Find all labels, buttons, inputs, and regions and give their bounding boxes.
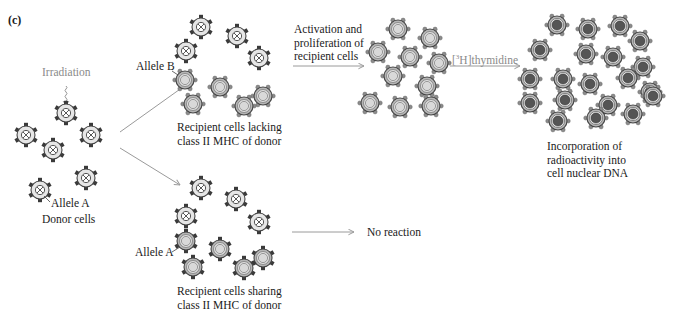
recipient-cell-allele-b xyxy=(251,85,276,107)
recipient-cell-allele-b xyxy=(232,95,257,117)
incorporation-line2: radioactivity into xyxy=(547,154,628,168)
radiolabeled-cell xyxy=(578,73,603,95)
radiolabeled-cell xyxy=(518,92,543,114)
donor-cell xyxy=(79,123,102,147)
incorporation-line3: cell nuclear DNA xyxy=(547,167,628,181)
irradiated-donor-cell xyxy=(174,204,197,228)
activated-recipient-cell xyxy=(366,41,391,63)
recipient-cell-allele-a xyxy=(208,237,231,261)
activated-recipient-cell xyxy=(427,52,452,74)
irradiation-label: Irradiation xyxy=(42,66,91,80)
recipient-sharing-caption: Recipient cells sharing class II MHC of … xyxy=(177,285,282,312)
radiolabeled-cell xyxy=(608,15,633,37)
recipient-sharing-line2: class II MHC of donor xyxy=(177,299,282,313)
recipient-cell-allele-a xyxy=(181,255,204,279)
allele-a-recipient-label: Allele A xyxy=(135,246,174,260)
activated-recipient-cell xyxy=(418,27,443,49)
recipient-cell-allele-b xyxy=(173,69,198,91)
activated-recipient-cell xyxy=(398,46,423,68)
donor-cell xyxy=(54,101,77,125)
recipient-sharing-line1: Recipient cells sharing xyxy=(177,285,282,299)
activation-line3: recipient cells xyxy=(294,50,364,64)
radiolabeled-cell xyxy=(574,43,599,65)
activated-recipient-cell xyxy=(419,95,444,117)
donor-cell xyxy=(14,123,37,147)
recipient-lacking-line2: class II MHC of donor xyxy=(177,135,282,149)
irradiated-donor-cell xyxy=(247,46,270,70)
irradiated-donor-cell xyxy=(189,15,212,39)
recipient-cell-allele-a xyxy=(232,256,255,280)
donor-cell xyxy=(41,138,64,162)
radiolabeled-cell xyxy=(545,14,570,36)
thymidine-label: [3H]thymidine xyxy=(452,51,518,67)
mixed-lymphocyte-reaction-diagram: (c) Irradiation Allele A Donor cells All… xyxy=(0,0,673,321)
recipient-cell-allele-a xyxy=(251,246,274,270)
no-reaction-label: No reaction xyxy=(367,226,421,240)
activated-recipient-cell xyxy=(358,92,383,114)
activated-recipient-cell xyxy=(386,18,411,40)
activation-caption: Activation and proliferation of recipien… xyxy=(294,23,364,64)
recipient-cell-allele-b xyxy=(181,93,206,115)
allele-a-donor-label: Allele A xyxy=(51,197,90,211)
activation-line1: Activation and xyxy=(294,23,364,37)
irradiated-donor-cell xyxy=(224,187,247,211)
radiolabeled-cell xyxy=(621,103,646,125)
recipient-cell-allele-b xyxy=(208,76,233,98)
incorporation-caption: Incorporation of radioactivity into cell… xyxy=(547,140,628,181)
arrow-donor-to-bottom xyxy=(120,148,180,185)
incorporation-line1: Incorporation of xyxy=(547,140,628,154)
radiolabeled-cell xyxy=(551,68,576,90)
radiolabeled-cell xyxy=(546,110,571,132)
activated-recipient-cell xyxy=(381,65,406,87)
allele-b-label: Allele B xyxy=(136,60,175,74)
donor-cells-label: Donor cells xyxy=(42,213,95,227)
irradiated-donor-cell xyxy=(225,24,248,48)
panel-label: (c) xyxy=(8,14,21,28)
activated-recipient-cell xyxy=(388,96,413,118)
radiolabeled-cell xyxy=(601,46,626,68)
recipient-lacking-caption: Recipient cells lacking class II MHC of … xyxy=(177,121,282,148)
irradiated-donor-cell xyxy=(247,210,270,234)
radiolabeled-cell xyxy=(628,30,653,52)
activation-line2: proliferation of xyxy=(294,37,364,51)
radiolabeled-cell xyxy=(528,39,553,61)
donor-cell xyxy=(28,178,51,202)
donor-cell xyxy=(74,166,97,190)
irradiated-donor-cell xyxy=(189,176,212,200)
radiolabeled-cell xyxy=(518,68,543,90)
irradiated-donor-cell xyxy=(174,39,197,63)
recipient-cell-allele-a xyxy=(174,229,197,253)
radiolabeled-cell xyxy=(576,18,601,40)
radiolabeled-cell xyxy=(553,89,578,111)
recipient-lacking-line1: Recipient cells lacking xyxy=(177,121,282,135)
activated-recipient-cell xyxy=(415,75,440,97)
